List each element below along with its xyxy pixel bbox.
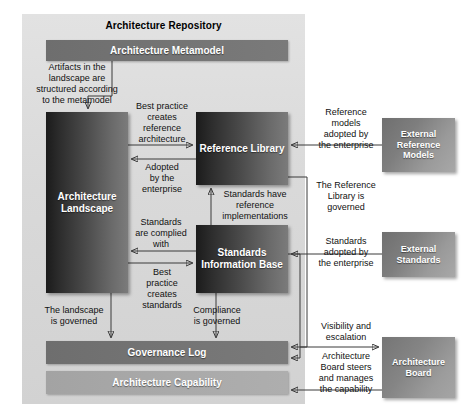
label-landscape-governed: The landscape is governed bbox=[30, 305, 118, 327]
label-board-steers: Architecture Board steers and manages th… bbox=[310, 351, 382, 395]
architecture-landscape-box[interactable]: Architecture Landscape bbox=[46, 112, 128, 293]
label-compliance-governed: Compliance is governed bbox=[181, 305, 253, 327]
standards-information-base-box[interactable]: Standards Information Base bbox=[196, 225, 288, 293]
architecture-board-box[interactable]: Architecture Board bbox=[382, 337, 455, 398]
label-standards-adopted: Standards adopted by the enterprise bbox=[310, 236, 382, 269]
label-standards-have-reference: Standards have reference implementations bbox=[216, 189, 294, 222]
label-reference-library-governed: The Reference Library is governed bbox=[310, 180, 382, 213]
architecture-capability-box[interactable]: Architecture Capability bbox=[46, 371, 288, 394]
diagram-canvas: Architecture Repository bbox=[0, 0, 472, 417]
external-standards-box[interactable]: External Standards bbox=[382, 232, 455, 277]
architecture-metamodel-box[interactable]: Architecture Metamodel bbox=[46, 40, 288, 61]
reference-library-box[interactable]: Reference Library bbox=[196, 112, 288, 185]
label-adopted-by-enterprise: Adopted by the enterprise bbox=[131, 162, 193, 195]
label-artifacts-structured: Artifacts in the landscape are structure… bbox=[22, 62, 132, 106]
label-reference-models-adopted: Reference models adopted by the enterpri… bbox=[310, 107, 382, 151]
label-standards-complied: Standards are complied with bbox=[128, 217, 194, 250]
governance-log-box[interactable]: Governance Log bbox=[46, 341, 288, 364]
label-best-practice-reference: Best practice creates reference architec… bbox=[131, 101, 193, 145]
page-title: Architecture Repository bbox=[22, 20, 305, 31]
label-visibility-escalation: Visibility and escalation bbox=[310, 321, 382, 343]
external-reference-models-box[interactable]: External Reference Models bbox=[382, 118, 455, 172]
